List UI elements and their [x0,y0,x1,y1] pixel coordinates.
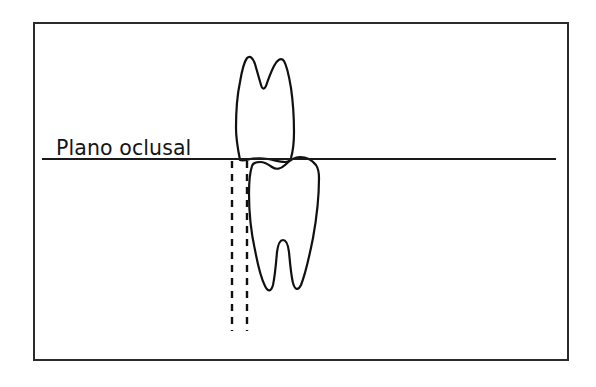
figure-root: Plano oclusal [0,0,596,387]
lower-tooth [249,157,319,290]
upper-tooth [236,57,294,162]
occlusal-plane-diagram: Plano oclusal [0,0,596,387]
occlusal-plane-label: Plano oclusal [56,136,191,160]
